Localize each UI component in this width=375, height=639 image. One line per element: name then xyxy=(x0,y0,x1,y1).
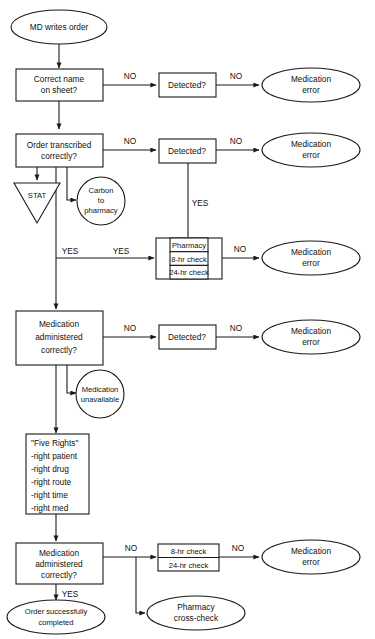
node-pharmacy-checks[interactable]: Pharmacy 8-hr check 24-hr check xyxy=(156,238,222,279)
node-correct-name-line1: Correct name xyxy=(34,74,85,84)
node-medication-error-2-line2: error xyxy=(302,150,320,160)
edge-label-yes-2: YES xyxy=(62,246,79,256)
node-medication-error-2[interactable]: Medication error xyxy=(262,133,360,167)
node-five-rights-line6: -right med xyxy=(31,503,69,513)
node-crosscheck-line1: Pharmacy xyxy=(177,602,215,612)
node-administered-1-line3: correctly? xyxy=(41,345,77,355)
node-medication-error-3-line2: error xyxy=(302,258,320,268)
node-carbon-line3: pharmacy xyxy=(84,206,118,215)
node-carbon-line2: to xyxy=(98,196,104,205)
node-five-rights-line4: -right route xyxy=(31,477,72,487)
node-administered-2-line3: correctly? xyxy=(41,570,77,580)
node-medication-error-2-line1: Medication xyxy=(291,139,332,149)
edge-label-yes-1: YES xyxy=(192,198,209,208)
edge-label-no-7: NO xyxy=(230,323,243,333)
node-detected-2-label: Detected? xyxy=(168,146,206,156)
node-medication-error-3[interactable]: Medication error xyxy=(262,241,360,275)
node-administered-2-line2: administered xyxy=(35,559,83,569)
node-medication-error-3-line1: Medication xyxy=(291,247,332,257)
node-carbon-line1: Carbon xyxy=(89,186,114,195)
node-correct-name-line2: on sheet? xyxy=(41,85,78,95)
node-medication-administered-2[interactable]: Medication administered correctly? xyxy=(16,543,103,584)
node-stat-label: STAT xyxy=(28,191,47,200)
node-medication-error-1-line1: Medication xyxy=(291,74,332,84)
node-five-rights-line5: -right time xyxy=(31,490,68,500)
node-unavailable-line1: Medication xyxy=(82,385,119,394)
node-medication-administered-1[interactable]: Medication administered correctly? xyxy=(16,311,103,365)
edge-label-no-1: NO xyxy=(124,71,137,81)
node-checks-row-1: 8-hr check xyxy=(171,547,207,556)
node-start-label: MD writes order xyxy=(30,22,89,32)
node-success-line2: completed xyxy=(38,618,73,627)
node-unavailable-line2: unavailable xyxy=(81,395,119,404)
node-medication-error-1[interactable]: Medication error xyxy=(262,68,360,102)
node-medication-error-1-line2: error xyxy=(302,85,320,95)
node-medication-error-5-line2: error xyxy=(302,557,320,567)
edge-transcribed-to-carbon xyxy=(67,167,76,200)
node-crosscheck-line2: cross-check xyxy=(174,613,219,623)
edge-label-no-3: NO xyxy=(124,136,137,146)
edge-label-no-4: NO xyxy=(230,136,243,146)
edge-label-yes-3: YES xyxy=(113,246,130,256)
edge-label-yes-4: YES xyxy=(62,589,79,599)
node-detected-1[interactable]: Detected? xyxy=(159,73,216,97)
edge-label-no-9: NO xyxy=(232,543,245,553)
edge-label-no-8: NO xyxy=(125,543,138,553)
node-administered-2-line1: Medication xyxy=(39,548,80,558)
node-five-rights-line1: "Five Rights" xyxy=(31,438,78,448)
node-stat[interactable]: STAT xyxy=(14,183,60,223)
node-five-rights-line3: -right drug xyxy=(31,464,69,474)
edge-label-no-5: NO xyxy=(234,244,247,254)
flowchart-canvas: MD writes order Correct name on sheet? D… xyxy=(0,0,375,639)
edge-label-no-6: NO xyxy=(124,323,137,333)
node-pharmacy-row-1: Pharmacy xyxy=(172,241,206,250)
node-order-successfully-completed[interactable]: Order successfully completed xyxy=(7,600,105,634)
node-checks-row-2: 24-hr check xyxy=(169,561,209,570)
node-order-transcribed-line2: correctly? xyxy=(41,151,77,161)
node-detected-3[interactable]: Detected? xyxy=(159,325,216,349)
node-order-transcribed-line1: Order transcribed xyxy=(27,140,92,150)
node-success-line1: Order successfully xyxy=(25,607,88,616)
node-correct-name[interactable]: Correct name on sheet? xyxy=(16,69,103,101)
node-detected-3-label: Detected? xyxy=(168,332,206,342)
node-carbon-to-pharmacy[interactable]: Carbon to pharmacy xyxy=(77,177,125,225)
node-administered-1-line1: Medication xyxy=(39,319,80,329)
node-administered-1-line2: administered xyxy=(35,332,83,342)
node-medication-error-5-line1: Medication xyxy=(291,546,332,556)
node-detected-1-label: Detected? xyxy=(168,80,206,90)
node-order-transcribed[interactable]: Order transcribed correctly? xyxy=(16,134,103,167)
node-detected-2[interactable]: Detected? xyxy=(159,139,216,163)
edge-administered1-to-unavailable xyxy=(67,365,76,393)
node-medication-error-4-line1: Medication xyxy=(291,326,332,336)
node-checks-box[interactable]: 8-hr check 24-hr check xyxy=(158,544,219,571)
node-medication-unavailable[interactable]: Medication unavailable xyxy=(76,370,124,418)
node-pharmacy-cross-check[interactable]: Pharmacy cross-check xyxy=(147,596,245,630)
edge-administered2-to-crosscheck xyxy=(136,557,145,613)
edge-label-no-2: NO xyxy=(230,71,243,81)
node-medication-error-4[interactable]: Medication error xyxy=(262,320,360,354)
node-five-rights-line2: -right patient xyxy=(31,451,78,461)
node-pharmacy-row-2: 8-hr check xyxy=(171,255,207,264)
node-medication-error-5[interactable]: Medication error xyxy=(262,540,360,574)
node-five-rights[interactable]: "Five Rights" -right patient -right drug… xyxy=(26,434,89,514)
node-start[interactable]: MD writes order xyxy=(11,10,107,44)
node-pharmacy-row-3: 24-hr check xyxy=(169,268,209,277)
node-medication-error-4-line2: error xyxy=(302,337,320,347)
